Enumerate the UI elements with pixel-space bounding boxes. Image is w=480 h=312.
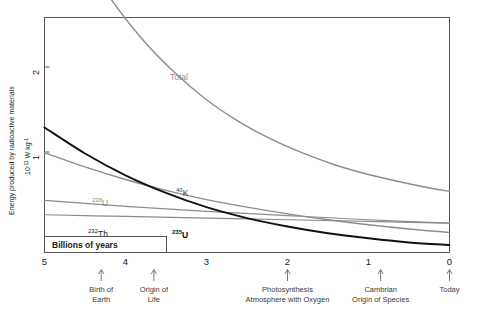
series-label-k40: 40K [176,187,189,198]
annotation-line1-birth-of-earth: Birth of [89,285,114,294]
x-tick-label-2: 2 [285,256,290,267]
u238-element: U [102,198,108,208]
y-tick-label-2: 2 [31,70,41,75]
x-axis-ticks: 543210 [42,256,452,267]
y-axis-unit-text: 10-11 W kg-1 [23,138,33,175]
annotation-photosynthesis: PhotosynthesisAtmosphere with Oxygen [246,270,330,305]
x-tick-label-4: 4 [123,256,128,267]
series-label-total: Total [170,72,188,82]
curve-total [45,0,450,191]
annotation-line1-origin-of-life: Origin of [140,285,169,294]
x-axis-title-box: Billions of years [45,237,167,253]
annotation-line2-photosynthesis: Atmosphere with Oxygen [246,295,330,304]
u235-element: U [182,230,188,240]
y-axis-unit: 10-11 W kg-1 [23,138,33,175]
series-label-u238: 238U [92,197,108,208]
unit-base: 10 [24,167,31,175]
event-annotations: Birth ofEarthOrigin ofLifePhotosynthesis… [89,270,459,305]
annotation-origin-of-life: Origin ofLife [140,270,169,305]
annotation-line2-origin-of-life: Life [148,295,160,304]
radiogenic-heat-chart: 2 1 Energy produced by radioactive mater… [0,0,480,312]
k40-element: K [183,188,189,198]
annotation-line2-cambrian: Origin of Species [352,295,409,304]
x-tick-label-0: 0 [447,256,452,267]
y-axis-title: Energy produced by radioactive materials [8,86,16,215]
y-axis-ticks: 2 1 [31,67,50,160]
x-axis-title: Billions of years [52,240,118,250]
annotation-line1-cambrian: Cambrian [364,285,397,294]
series-label-u235: 235U [172,229,188,240]
unit-mid: W kg [24,142,32,160]
annotation-line1-today: Today [439,285,459,294]
chart-svg: 2 1 Energy produced by radioactive mater… [0,0,480,312]
series-curves [45,0,450,245]
annotation-birth-of-earth: Birth ofEarth [89,270,114,305]
annotation-line2-birth-of-earth: Earth [92,295,110,304]
x-tick-label-1: 1 [366,256,371,267]
y-tick-label-1: 1 [31,155,41,160]
annotation-today: Today [439,270,459,295]
x-tick-label-3: 3 [204,256,209,267]
x-tick-label-5: 5 [42,256,47,267]
unit-exp-2: -1 [23,138,29,143]
annotation-line1-photosynthesis: Photosynthesis [262,285,313,294]
annotation-cambrian: CambrianOrigin of Species [352,270,409,305]
